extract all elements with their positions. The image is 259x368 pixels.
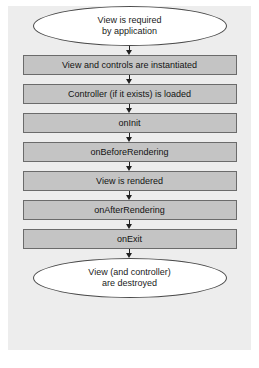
arrow-icon <box>125 46 134 55</box>
process-box-view-is-rendered: View is rendered <box>23 171 237 191</box>
process-box-label: onAfterRendering <box>94 205 165 215</box>
end-terminator: View (and controller) are destroyed <box>33 258 227 298</box>
process-box-controller-loaded: Controller (if it exists) is loaded <box>23 84 237 104</box>
arrow-head <box>126 253 132 258</box>
process-box-label: onExit <box>117 234 142 244</box>
process-box-label: onBeforeRendering <box>90 147 168 157</box>
arrow-icon <box>125 249 134 258</box>
arrow-head <box>126 137 132 142</box>
arrow-icon <box>125 191 134 200</box>
process-box-onafterrendering: onAfterRendering <box>23 200 237 220</box>
end-terminator-line-1: View (and controller) <box>88 267 170 278</box>
process-box-oninit: onInit <box>23 113 237 133</box>
arrow-head <box>126 50 132 55</box>
process-box-label: View and controls are instantiated <box>62 60 197 70</box>
start-terminator-line-2: by application <box>102 26 157 37</box>
end-terminator-line-2: are destroyed <box>102 278 157 289</box>
arrow-icon <box>125 133 134 142</box>
process-box-label: Controller (if it exists) is loaded <box>68 89 191 99</box>
arrow-head <box>126 108 132 113</box>
arrow-head <box>126 195 132 200</box>
process-box-onbeforerendering: onBeforeRendering <box>23 142 237 162</box>
process-box-view-and-controls-instantiated: View and controls are instantiated <box>23 55 237 75</box>
process-box-onexit: onExit <box>23 229 237 249</box>
arrow-icon <box>125 75 134 84</box>
start-terminator: View is required by application <box>33 6 227 46</box>
arrow-head <box>126 79 132 84</box>
arrow-icon <box>125 220 134 229</box>
process-box-label: View is rendered <box>96 176 163 186</box>
arrow-icon <box>125 162 134 171</box>
process-box-label: onInit <box>118 118 140 128</box>
arrow-icon <box>125 104 134 113</box>
flowchart-canvas: View is required by application View and… <box>8 6 251 350</box>
start-terminator-line-1: View is required <box>98 15 162 26</box>
flow-node-stack: View is required by application View and… <box>8 6 251 298</box>
arrow-head <box>126 166 132 171</box>
arrow-head <box>126 224 132 229</box>
